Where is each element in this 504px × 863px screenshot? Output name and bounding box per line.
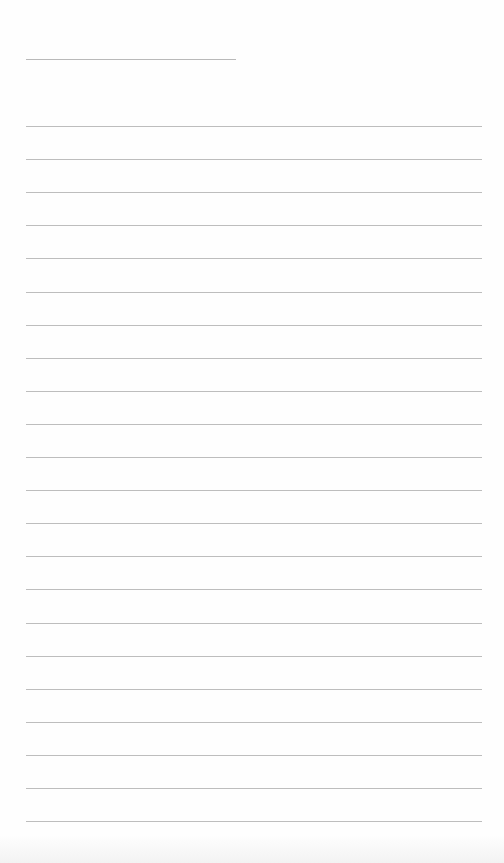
line-text — [26, 595, 482, 623]
line-text — [26, 528, 482, 556]
ruled-line — [26, 589, 482, 590]
line-text — [26, 396, 482, 424]
lined-page — [0, 0, 504, 863]
line-text — [26, 264, 482, 292]
line-text — [26, 727, 482, 755]
line-text — [26, 628, 482, 656]
line-text — [26, 793, 482, 821]
ruled-line — [26, 656, 482, 657]
line-text — [26, 230, 482, 258]
ruled-line — [26, 159, 482, 160]
ruled-line — [26, 490, 482, 491]
line-text — [26, 330, 482, 358]
ruled-line — [26, 225, 482, 226]
line-text — [26, 164, 482, 192]
ruled-line — [26, 292, 482, 293]
line-text — [26, 297, 482, 325]
ruled-line — [26, 358, 482, 359]
ruled-line — [26, 192, 482, 193]
line-text — [26, 561, 482, 589]
line-text — [26, 661, 482, 689]
line-text — [26, 131, 482, 159]
ruled-line — [26, 258, 482, 259]
line-text — [26, 197, 482, 225]
ruled-line — [26, 556, 482, 557]
bottom-shadow — [0, 835, 504, 863]
ruled-line — [26, 788, 482, 789]
line-text — [26, 694, 482, 722]
line-text — [26, 98, 482, 126]
ruled-line — [26, 325, 482, 326]
line-text — [26, 429, 482, 457]
ruled-line — [26, 689, 482, 690]
ruled-line — [26, 391, 482, 392]
ruled-line — [26, 126, 482, 127]
ruled-line — [26, 523, 482, 524]
line-text — [26, 760, 482, 788]
line-text — [26, 363, 482, 391]
header-line-text — [26, 38, 236, 59]
ruled-line — [26, 457, 482, 458]
ruled-line — [26, 623, 482, 624]
header-line — [26, 59, 236, 60]
ruled-line — [26, 424, 482, 425]
ruled-line — [26, 755, 482, 756]
ruled-line — [26, 821, 482, 822]
line-text — [26, 495, 482, 523]
ruled-line — [26, 722, 482, 723]
line-text — [26, 462, 482, 490]
